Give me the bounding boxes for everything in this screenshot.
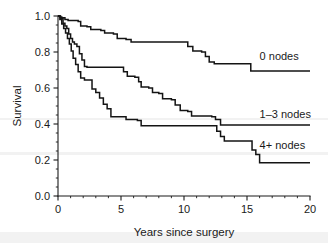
- x-tick-label: 0: [55, 203, 61, 215]
- series-label-1: 1–3 nodes: [260, 108, 312, 120]
- scan-artifact-bands: [0, 118, 328, 243]
- series-label-0: 0 nodes: [260, 50, 300, 62]
- x-tick-label: 20: [304, 203, 316, 215]
- x-tick-label: 10: [178, 203, 190, 215]
- x-tick-label: 5: [118, 203, 124, 215]
- y-tick-label: 0.8: [35, 46, 50, 58]
- series-labels: 0 nodes1–3 nodes4+ nodes: [260, 50, 312, 151]
- y-tick-label: 0.2: [35, 154, 50, 166]
- axes: [58, 16, 310, 196]
- survival-chart-svg: 0.00.20.40.60.81.005101520 0 nodes1–3 no…: [0, 0, 328, 243]
- x-tick-label: 15: [241, 203, 253, 215]
- y-tick-label: 0.0: [35, 190, 50, 202]
- x-axis-title: Years since surgery: [134, 226, 235, 238]
- y-tick-label: 0.4: [35, 118, 50, 130]
- survival-curve-0: [58, 16, 310, 71]
- y-tick-label: 1.0: [35, 10, 50, 22]
- series-label-2: 4+ nodes: [260, 139, 306, 151]
- survival-chart-figure: 0.00.20.40.60.81.005101520 0 nodes1–3 no…: [0, 0, 328, 243]
- y-tick-label: 0.6: [35, 82, 50, 94]
- y-axis-title: Survival: [11, 86, 23, 127]
